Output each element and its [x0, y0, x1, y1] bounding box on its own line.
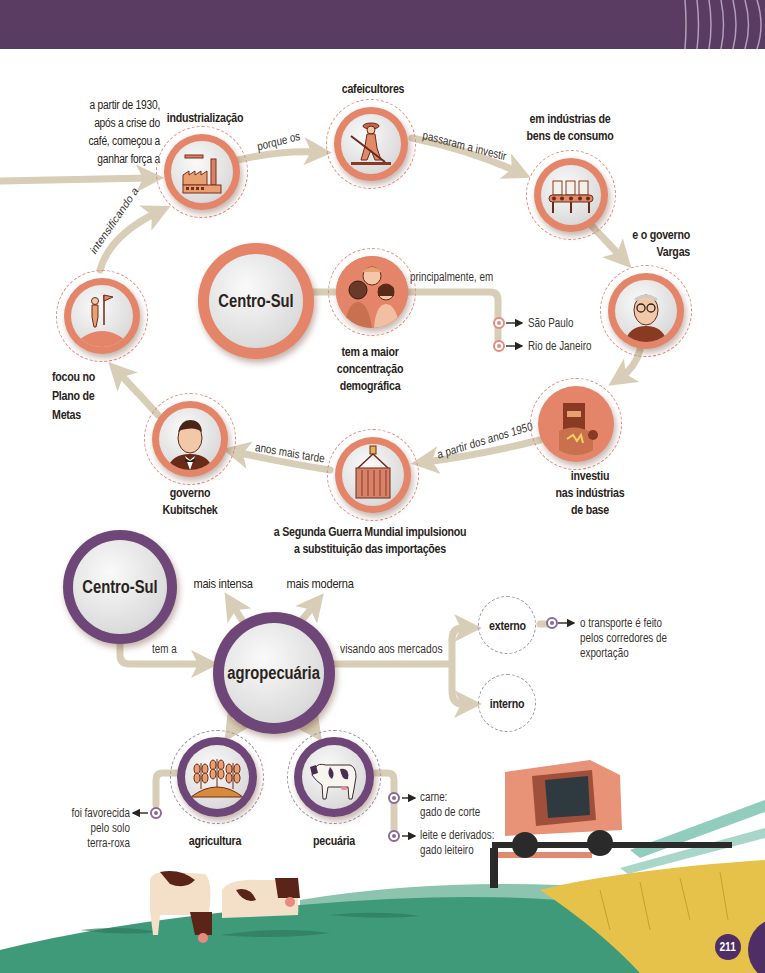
farm-illustration — [0, 0, 765, 973]
page-number-badge: 211 — [715, 934, 741, 960]
